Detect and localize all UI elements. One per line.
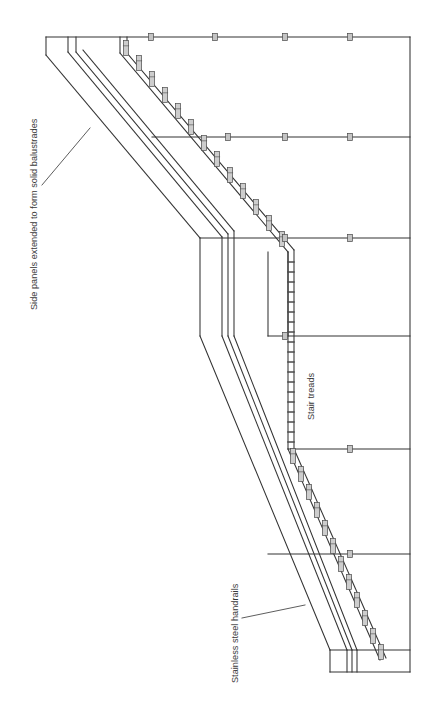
- lower-flight-balustrade-panel: [200, 336, 347, 650]
- floor-level-lines: [46, 37, 410, 672]
- leader-line-handrails: [242, 605, 305, 618]
- annotation-stair-treads-label: Stair treads: [307, 373, 316, 420]
- annotation-balustrades-label: Side panels extended to form solid balus…: [30, 119, 39, 310]
- stair-tread-ticks: [288, 262, 294, 442]
- leader-line-balustrades: [42, 128, 90, 185]
- annotation-handrails-label: Stainless steel handrails: [231, 584, 240, 683]
- stair-treads-edge-band: [288, 250, 294, 449]
- lower-flight-handrails: [228, 336, 357, 650]
- staircase-drawing-canvas: Side panels extended to form solid balus…: [0, 0, 432, 727]
- upper-flight-handrails: [76, 50, 234, 234]
- middle-landing: [200, 231, 288, 336]
- upper-slab-returns: [46, 37, 127, 55]
- bottom-landing: [330, 650, 357, 672]
- staircase-elevation-svg: [0, 0, 432, 727]
- upper-flight-balustrade-panel: [46, 52, 222, 238]
